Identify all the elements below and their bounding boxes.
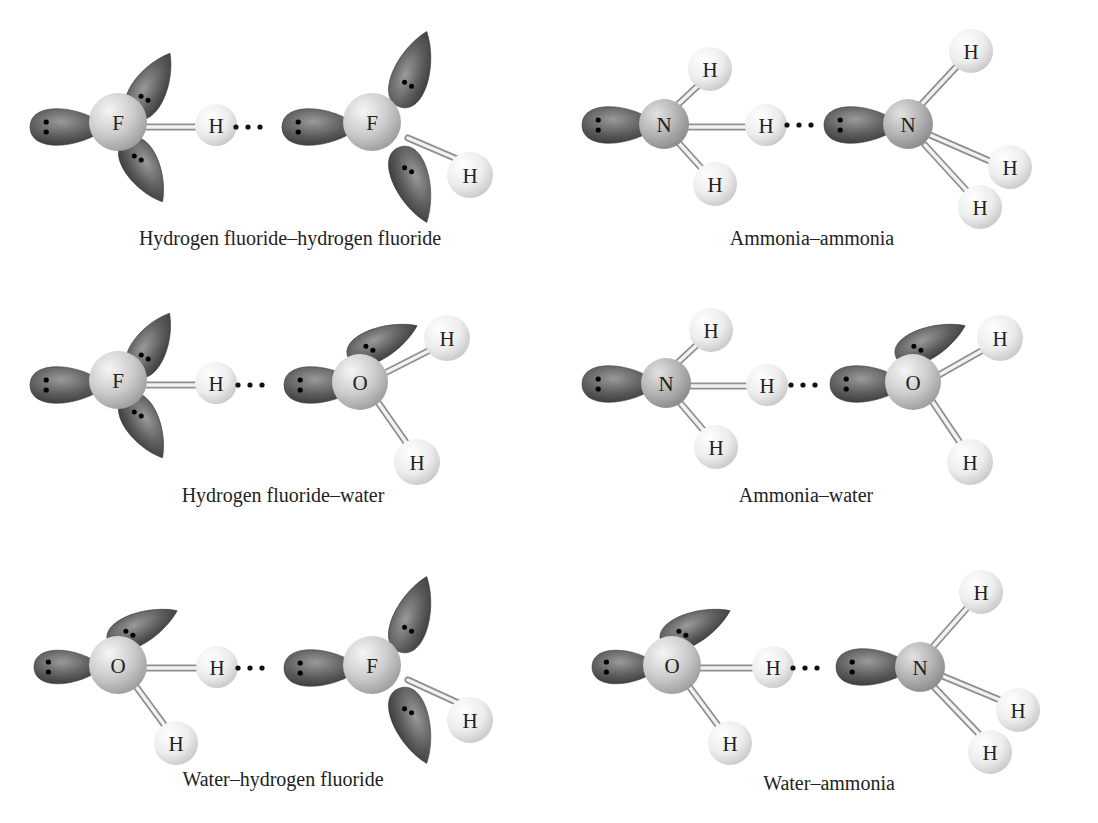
atom-symbol: H — [722, 732, 737, 756]
hydrogen-atom: H — [977, 315, 1023, 361]
panel-hf-h2o: FHOHH — [30, 304, 470, 485]
panel-caption: Water–hydrogen fluoride — [182, 768, 383, 791]
covalent-bond — [918, 65, 958, 108]
hydrogen-atom: H — [688, 47, 732, 91]
panel-caption: Hydrogen fluoride–hydrogen fluoride — [139, 227, 441, 250]
hydrogen-atom: H — [196, 646, 238, 688]
hydrogen-atom: H — [708, 721, 752, 765]
atom-f: F — [343, 93, 401, 151]
panel-hf-hf: FHFH — [30, 25, 493, 228]
hydrogen-bond-dots — [233, 124, 262, 129]
hydrogen-atom: H — [195, 362, 237, 404]
hydrogen-bond-dots — [790, 665, 819, 670]
atom-symbol: F — [366, 111, 378, 135]
covalent-bond — [935, 688, 978, 733]
atom-symbol: H — [973, 581, 988, 605]
atom-symbol: H — [759, 374, 774, 398]
hydrogen-atom: H — [949, 29, 993, 73]
atom-f: F — [89, 351, 147, 409]
atom-o: O — [89, 636, 147, 694]
hydrogen-atom: H — [947, 439, 993, 485]
atom-symbol: H — [703, 319, 718, 343]
hydrogen-bond-dots — [235, 665, 264, 670]
atom-symbol: H — [409, 451, 424, 475]
atom-symbol: H — [982, 741, 997, 765]
hydrogen-atom: H — [752, 646, 794, 688]
atom-symbol: H — [962, 451, 977, 475]
atom-symbol: O — [905, 371, 920, 395]
lone-pair-lobe — [382, 141, 444, 229]
hydrogen-atom: H — [394, 439, 440, 485]
atom-o: O — [885, 354, 941, 410]
atom-n: N — [641, 358, 691, 408]
hydrogen-atom: H — [996, 688, 1040, 732]
panel-h2o-hf: OHHFH — [34, 570, 493, 769]
atom-symbol: H — [462, 164, 477, 188]
panel-nh3-h2o: NHHHOHH — [582, 308, 1023, 485]
atom-symbol: F — [112, 111, 124, 135]
atom-symbol: H — [1002, 156, 1017, 180]
hydrogen-atom: H — [745, 104, 787, 146]
atom-symbol: H — [208, 114, 223, 138]
atom-symbol: H — [992, 327, 1007, 351]
atom-symbol: H — [702, 58, 717, 82]
atom-symbol: H — [707, 173, 722, 197]
panel-caption: Water–ammonia — [763, 772, 895, 794]
panel-caption: Ammonia–water — [739, 484, 874, 506]
atom-symbol: N — [658, 372, 673, 396]
panel-caption: Ammonia–ammonia — [730, 227, 895, 249]
panel-caption: Hydrogen fluoride–water — [182, 484, 385, 507]
covalent-bond — [940, 675, 1000, 700]
atom-n: N — [895, 642, 945, 692]
hydrogen-atom: H — [968, 730, 1012, 774]
atom-f: F — [89, 93, 147, 151]
lone-pair-lobe — [382, 25, 444, 113]
atom-n: N — [883, 99, 933, 149]
hydrogen-atom: H — [958, 185, 1002, 229]
hydrogen-atom: H — [959, 570, 1003, 614]
covalent-bond — [676, 140, 705, 172]
atom-symbol: H — [1010, 699, 1025, 723]
hydrogen-bond-dots — [788, 382, 817, 387]
hydrogen-bond-dots — [235, 382, 264, 387]
covalent-bond — [375, 398, 410, 448]
atom-symbol: N — [656, 113, 671, 137]
atom-symbol: H — [963, 40, 978, 64]
hydrogen-atom: H — [693, 162, 737, 206]
hydrogen-bond-dots — [784, 122, 813, 127]
atom-n: N — [639, 99, 689, 149]
atom-symbol: H — [208, 372, 223, 396]
atom-symbol: H — [439, 327, 454, 351]
atom-symbol: O — [352, 371, 367, 395]
panel-nh3-nh3: NHHHNHHH — [582, 29, 1032, 229]
atom-symbol: H — [209, 656, 224, 680]
atom-symbol: N — [912, 656, 927, 680]
atom-symbol: H — [972, 196, 987, 220]
atom-symbol: N — [900, 113, 915, 137]
hydrogen-atom: H — [195, 104, 237, 146]
covalent-bond — [688, 685, 720, 728]
atom-symbol: F — [112, 369, 124, 393]
atom-o: O — [643, 636, 701, 694]
atom-f: F — [343, 636, 401, 694]
atom-symbol: H — [765, 656, 780, 680]
hydrogen-atom: H — [447, 152, 493, 198]
atom-symbol: H — [462, 709, 477, 733]
atom-symbol: O — [664, 654, 679, 678]
hydrogen-atom: H — [689, 308, 733, 352]
hydrogen-atom: H — [694, 425, 738, 469]
atom-o: O — [332, 354, 388, 410]
covalent-bond — [930, 608, 967, 650]
hydrogen-bond-figure: FHFHNHHHNHHHFHOHHNHHHOHHOHHFHOHHNHHH Hyd… — [0, 0, 1098, 823]
atom-symbol: F — [366, 654, 378, 678]
hydrogen-atom: H — [447, 697, 493, 743]
hydrogen-atom: H — [988, 145, 1032, 189]
hydrogen-atom: H — [424, 315, 470, 361]
panel-h2o-nh3: OHHNHHH — [592, 570, 1040, 774]
hydrogen-atom: H — [154, 721, 198, 765]
atom-symbol: H — [758, 114, 773, 138]
atom-symbol: H — [708, 436, 723, 460]
covalent-bond — [135, 685, 168, 730]
atom-symbol: O — [110, 654, 125, 678]
hydrogen-atom: H — [746, 364, 788, 406]
